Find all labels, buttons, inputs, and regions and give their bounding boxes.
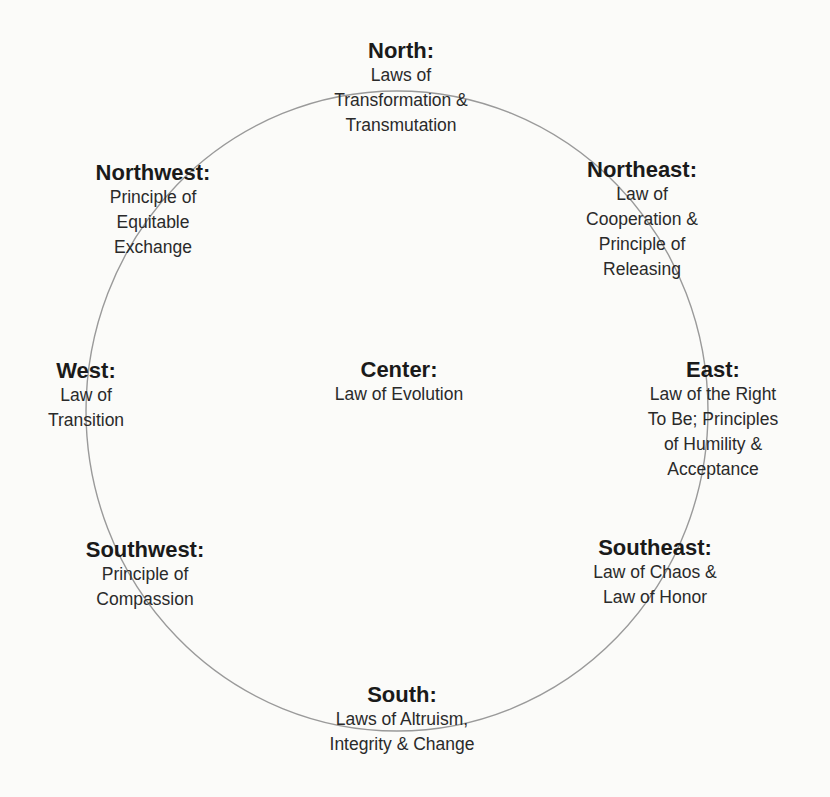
node-center-line: Law of Evolution: [335, 382, 463, 407]
node-south: South: Laws of Altruism, Integrity & Cha…: [330, 682, 475, 757]
node-north: North: Laws of Transformation & Transmut…: [334, 38, 468, 138]
node-west-title: West:: [48, 358, 124, 383]
node-southwest-line: Principle of: [86, 562, 205, 587]
node-northwest-line: Exchange: [96, 235, 211, 260]
node-northwest-line: Principle of: [96, 185, 211, 210]
node-northeast-line: Law of: [586, 182, 698, 207]
node-southwest: Southwest: Principle of Compassion: [86, 537, 205, 612]
node-southeast-title: Southeast:: [593, 535, 717, 560]
node-north-line: Laws of: [334, 63, 468, 88]
node-north-line: Transformation &: [334, 88, 468, 113]
node-center: Center: Law of Evolution: [335, 357, 463, 407]
node-east-line: Law of the Right: [648, 382, 778, 407]
node-northwest: Northwest: Principle of Equitable Exchan…: [96, 160, 211, 260]
node-center-title: Center:: [335, 357, 463, 382]
node-north-title: North:: [334, 38, 468, 63]
node-southeast-line: Law of Chaos &: [593, 560, 717, 585]
node-east-line: of Humility &: [648, 432, 778, 457]
node-east-title: East:: [648, 357, 778, 382]
node-northwest-title: Northwest:: [96, 160, 211, 185]
node-east-line: To Be; Principles: [648, 407, 778, 432]
node-southwest-line: Compassion: [86, 587, 205, 612]
node-south-line: Integrity & Change: [330, 732, 475, 757]
node-north-line: Transmutation: [334, 113, 468, 138]
node-east-line: Acceptance: [648, 457, 778, 482]
node-northeast-line: Releasing: [586, 257, 698, 282]
node-northeast-title: Northeast:: [586, 157, 698, 182]
node-northeast: Northeast: Law of Cooperation & Principl…: [586, 157, 698, 282]
node-west: West: Law of Transition: [48, 358, 124, 433]
node-northwest-line: Equitable: [96, 210, 211, 235]
node-southwest-title: Southwest:: [86, 537, 205, 562]
node-northeast-line: Cooperation &: [586, 207, 698, 232]
node-west-line: Transition: [48, 408, 124, 433]
node-southeast: Southeast: Law of Chaos & Law of Honor: [593, 535, 717, 610]
node-west-line: Law of: [48, 383, 124, 408]
node-east: East: Law of the Right To Be; Principles…: [648, 357, 778, 482]
node-northeast-line: Principle of: [586, 232, 698, 257]
node-south-title: South:: [330, 682, 475, 707]
node-southeast-line: Law of Honor: [593, 585, 717, 610]
node-south-line: Laws of Altruism,: [330, 707, 475, 732]
